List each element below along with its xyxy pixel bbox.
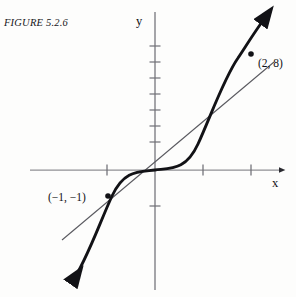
point-marker-upper [248,51,254,57]
plot-area [0,0,296,297]
y-axis-label: y [136,14,142,29]
y-axis [150,12,161,290]
point-label-upper: (2, 8) [258,57,283,69]
point-label-lower: (−1, −1) [48,191,86,203]
secant-line [62,62,274,240]
point-marker-lower [105,193,111,199]
x-axis-label: x [272,176,278,191]
figure-container: FIGURE 5.2.6 [0,0,296,297]
